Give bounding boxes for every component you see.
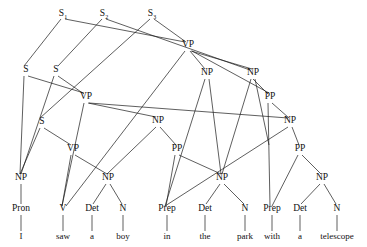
- phrase-node-s: S: [53, 64, 58, 74]
- pos-node-n: N: [120, 203, 127, 213]
- word-token: telescope: [320, 231, 353, 241]
- pos-node-prep: Prep: [158, 203, 176, 213]
- word-token: the: [200, 231, 211, 241]
- tree-edge: [20, 128, 40, 174]
- phrase-node-s: S: [39, 116, 44, 126]
- phrase-node-np: NP: [201, 67, 213, 77]
- pos-node-det: Det: [198, 203, 212, 213]
- phrase-node-np: NP: [15, 172, 27, 182]
- tree-edge: [65, 19, 185, 42]
- node-subscript: 1: [64, 14, 67, 20]
- tree-edge: [107, 127, 156, 174]
- tree-edge: [62, 103, 84, 206]
- phrase-node-s: S3: [148, 8, 156, 20]
- tree-edge: [20, 76, 24, 174]
- parse-tree-canvas: S1S2S3VPSSNPNPVPPPSNPNPVPPPPPNPNPNPNP Pr…: [0, 0, 367, 247]
- phrase-node-vp: VP: [80, 91, 92, 101]
- pos-node-v: V: [60, 203, 67, 213]
- word-token: boy: [116, 231, 130, 241]
- phrase-node-s: S: [23, 64, 28, 74]
- tree-edge: [268, 103, 270, 206]
- pos-node-det: Det: [293, 203, 307, 213]
- pos-node-pron: Pron: [12, 203, 30, 213]
- tree-edge: [93, 184, 106, 204]
- phrase-node-pp: PP: [265, 91, 276, 101]
- word-token: a: [90, 231, 94, 241]
- phrase-node-vp: VP: [182, 39, 194, 49]
- tree-edge: [324, 184, 336, 204]
- tree-edge: [21, 76, 54, 174]
- word-token: in: [163, 231, 171, 241]
- pos-node-prep: Prep: [263, 203, 281, 213]
- node-subscript: 3: [153, 14, 156, 20]
- pos-node-n: N: [334, 203, 341, 213]
- tree-edge: [62, 155, 71, 206]
- tree-edge: [110, 184, 122, 204]
- tree-edge: [224, 184, 244, 204]
- phrase-node-s: S1: [59, 8, 67, 20]
- phrase-node-pp: PP: [295, 143, 306, 153]
- tree-edge: [66, 51, 185, 206]
- tree-edge: [301, 184, 320, 204]
- phrase-node-np: NP: [247, 67, 259, 77]
- tree-edges: [20, 19, 337, 231]
- phrase-node-np: NP: [216, 172, 228, 182]
- pos-node-det: Det: [85, 203, 99, 213]
- tree-edge: [89, 103, 288, 118]
- node-subscript: 2: [105, 14, 108, 20]
- tree-edge: [58, 19, 102, 66]
- tree-edge: [272, 155, 298, 206]
- word-nodes: Isawaboyintheparkwithatelescope: [20, 231, 354, 241]
- pos-node-n: N: [242, 203, 249, 213]
- phrase-nodes: S1S2S3VPSSNPNPVPPPSNPNPVPPPPPNPNPNPNP: [15, 8, 328, 182]
- tree-edge: [166, 155, 175, 206]
- word-token: park: [237, 231, 253, 241]
- tree-edge: [206, 184, 220, 204]
- phrase-node-s: S2: [100, 8, 108, 20]
- parse-tree-diagram: S1S2S3VPSSNPNPVPPPSNPNPVPPPPPNPNPNPNP Pr…: [0, 0, 367, 247]
- word-token: a: [298, 231, 302, 241]
- phrase-node-pp: PP: [172, 143, 183, 153]
- tree-edge: [28, 76, 84, 93]
- tree-edge: [24, 19, 61, 66]
- tree-edge: [179, 155, 221, 174]
- phrase-node-np: NP: [102, 172, 114, 182]
- word-token: I: [20, 231, 23, 241]
- phrase-node-np: NP: [284, 115, 296, 125]
- phrase-node-np: NP: [316, 172, 328, 182]
- word-token: saw: [56, 231, 70, 241]
- word-token: with: [264, 231, 281, 241]
- tree-edge: [209, 79, 221, 174]
- tree-edge: [88, 103, 156, 117]
- pos-nodes: PronVDetNPrepDetNPrepDetN: [12, 203, 341, 213]
- phrase-node-vp: VP: [67, 143, 79, 153]
- phrase-node-np: NP: [152, 115, 164, 125]
